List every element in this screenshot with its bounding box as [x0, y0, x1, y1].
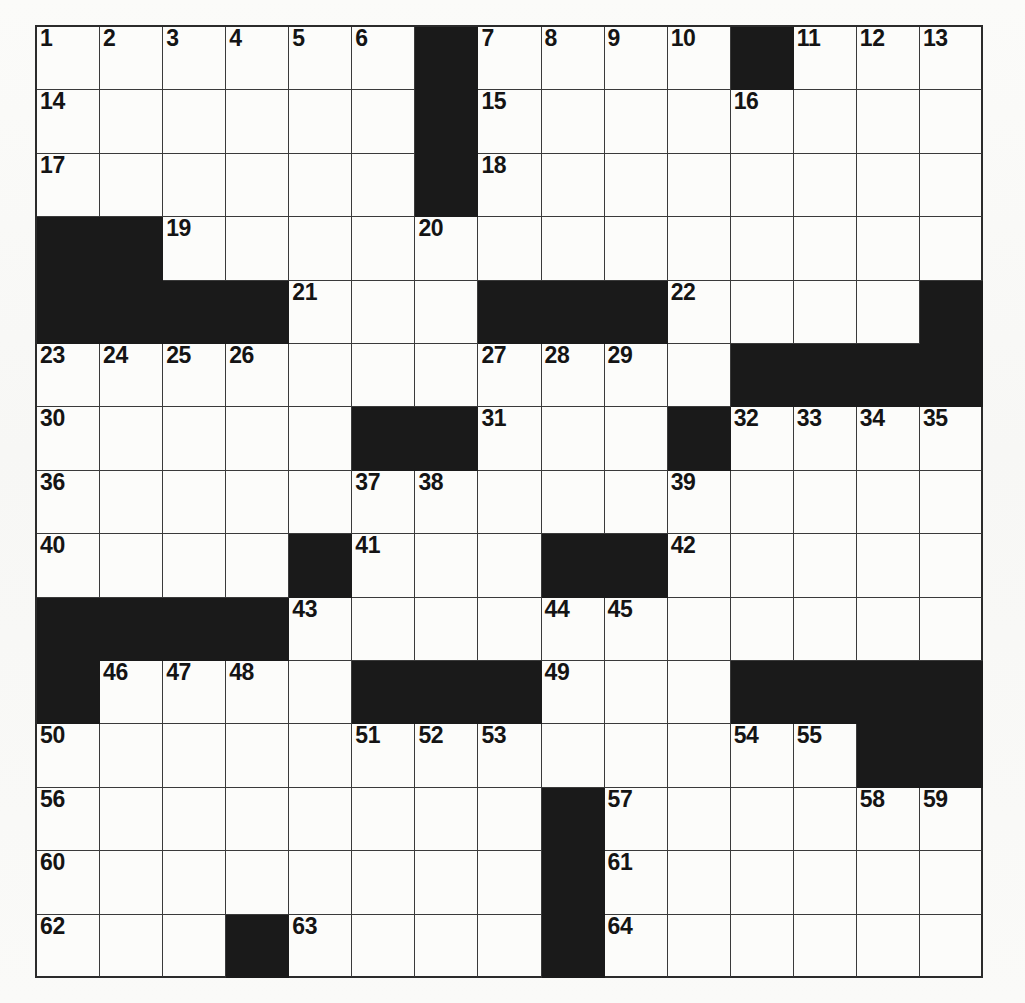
- crossword-cell[interactable]: [289, 217, 352, 280]
- crossword-cell-28[interactable]: 28: [542, 344, 605, 407]
- crossword-cell[interactable]: [794, 534, 857, 597]
- crossword-cell[interactable]: [668, 851, 731, 914]
- crossword-cell-9[interactable]: 9: [605, 27, 668, 90]
- crossword-cell[interactable]: [415, 915, 478, 978]
- crossword-cell[interactable]: [920, 471, 983, 534]
- crossword-cell-41[interactable]: 41: [352, 534, 415, 597]
- crossword-cell[interactable]: [352, 281, 415, 344]
- crossword-cell-43[interactable]: 43: [289, 598, 352, 661]
- crossword-cell[interactable]: [352, 217, 415, 280]
- crossword-cell[interactable]: [289, 344, 352, 407]
- crossword-cell[interactable]: [542, 154, 605, 217]
- crossword-cell[interactable]: [415, 281, 478, 344]
- crossword-cell-52[interactable]: 52: [415, 724, 478, 787]
- crossword-cell[interactable]: [542, 407, 605, 470]
- crossword-cell[interactable]: [226, 471, 289, 534]
- crossword-cell[interactable]: [794, 217, 857, 280]
- crossword-cell[interactable]: [289, 724, 352, 787]
- crossword-cell[interactable]: [289, 407, 352, 470]
- crossword-cell[interactable]: [163, 471, 226, 534]
- crossword-cell[interactable]: [163, 534, 226, 597]
- crossword-cell-23[interactable]: 23: [37, 344, 100, 407]
- crossword-cell-42[interactable]: 42: [668, 534, 731, 597]
- crossword-cell-29[interactable]: 29: [605, 344, 668, 407]
- crossword-cell[interactable]: [352, 344, 415, 407]
- crossword-cell[interactable]: [289, 851, 352, 914]
- crossword-cell[interactable]: [478, 534, 541, 597]
- crossword-cell[interactable]: [794, 598, 857, 661]
- crossword-cell[interactable]: [857, 281, 920, 344]
- crossword-cell-20[interactable]: 20: [415, 217, 478, 280]
- crossword-cell[interactable]: [542, 217, 605, 280]
- crossword-cell[interactable]: [100, 534, 163, 597]
- crossword-cell[interactable]: [542, 471, 605, 534]
- crossword-cell-40[interactable]: 40: [37, 534, 100, 597]
- crossword-cell[interactable]: [289, 90, 352, 153]
- crossword-cell-49[interactable]: 49: [542, 661, 605, 724]
- crossword-cell[interactable]: [857, 217, 920, 280]
- crossword-cell[interactable]: [542, 90, 605, 153]
- crossword-cell[interactable]: [478, 915, 541, 978]
- crossword-cell[interactable]: [731, 598, 794, 661]
- crossword-cell[interactable]: [605, 154, 668, 217]
- crossword-cell-39[interactable]: 39: [668, 471, 731, 534]
- crossword-cell[interactable]: [857, 90, 920, 153]
- crossword-cell[interactable]: [731, 534, 794, 597]
- crossword-cell[interactable]: [857, 471, 920, 534]
- crossword-cell[interactable]: [163, 724, 226, 787]
- crossword-cell-38[interactable]: 38: [415, 471, 478, 534]
- crossword-cell-26[interactable]: 26: [226, 344, 289, 407]
- crossword-cell[interactable]: [605, 724, 668, 787]
- crossword-cell-30[interactable]: 30: [37, 407, 100, 470]
- crossword-cell-56[interactable]: 56: [37, 788, 100, 851]
- crossword-cell[interactable]: [100, 788, 163, 851]
- crossword-cell-5[interactable]: 5: [289, 27, 352, 90]
- crossword-cell[interactable]: [920, 534, 983, 597]
- crossword-cell[interactable]: [857, 598, 920, 661]
- crossword-cell-48[interactable]: 48: [226, 661, 289, 724]
- crossword-cell[interactable]: [415, 788, 478, 851]
- crossword-cell[interactable]: [920, 598, 983, 661]
- crossword-cell[interactable]: [857, 154, 920, 217]
- crossword-cell-18[interactable]: 18: [478, 154, 541, 217]
- crossword-cell[interactable]: [668, 788, 731, 851]
- crossword-cell-62[interactable]: 62: [37, 915, 100, 978]
- crossword-cell-4[interactable]: 4: [226, 27, 289, 90]
- crossword-cell-50[interactable]: 50: [37, 724, 100, 787]
- crossword-cell-45[interactable]: 45: [605, 598, 668, 661]
- crossword-cell[interactable]: [289, 154, 352, 217]
- crossword-cell-36[interactable]: 36: [37, 471, 100, 534]
- crossword-cell-34[interactable]: 34: [857, 407, 920, 470]
- crossword-cell[interactable]: [100, 851, 163, 914]
- crossword-cell-47[interactable]: 47: [163, 661, 226, 724]
- crossword-cell[interactable]: [668, 217, 731, 280]
- crossword-cell[interactable]: [352, 851, 415, 914]
- crossword-cell-57[interactable]: 57: [605, 788, 668, 851]
- crossword-cell[interactable]: [731, 281, 794, 344]
- crossword-cell-13[interactable]: 13: [920, 27, 983, 90]
- crossword-cell[interactable]: [668, 724, 731, 787]
- crossword-cell-12[interactable]: 12: [857, 27, 920, 90]
- crossword-cell[interactable]: [731, 471, 794, 534]
- crossword-cell[interactable]: [731, 217, 794, 280]
- crossword-cell[interactable]: [163, 90, 226, 153]
- crossword-cell[interactable]: [668, 598, 731, 661]
- crossword-cell-58[interactable]: 58: [857, 788, 920, 851]
- crossword-cell[interactable]: [668, 154, 731, 217]
- crossword-cell[interactable]: [478, 851, 541, 914]
- crossword-cell[interactable]: [226, 851, 289, 914]
- crossword-cell[interactable]: [226, 90, 289, 153]
- crossword-cell[interactable]: [794, 788, 857, 851]
- crossword-cell[interactable]: [794, 281, 857, 344]
- crossword-cell[interactable]: [920, 90, 983, 153]
- crossword-cell[interactable]: [920, 915, 983, 978]
- crossword-cell-32[interactable]: 32: [731, 407, 794, 470]
- crossword-cell-24[interactable]: 24: [100, 344, 163, 407]
- crossword-cell[interactable]: [668, 344, 731, 407]
- crossword-cell[interactable]: [478, 598, 541, 661]
- crossword-cell[interactable]: [163, 154, 226, 217]
- crossword-cell[interactable]: [226, 788, 289, 851]
- crossword-cell[interactable]: [668, 915, 731, 978]
- crossword-cell-51[interactable]: 51: [352, 724, 415, 787]
- crossword-cell[interactable]: [289, 661, 352, 724]
